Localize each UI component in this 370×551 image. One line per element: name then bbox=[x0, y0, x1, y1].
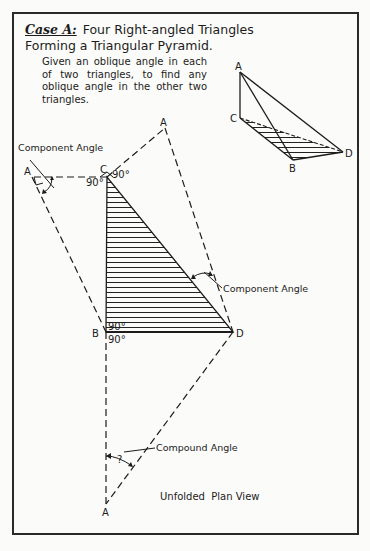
pyramid-label-b: B bbox=[289, 163, 296, 174]
pyramid-sketch: A C B D bbox=[230, 61, 353, 174]
vertex-label-b: B bbox=[92, 328, 99, 339]
leader-compound bbox=[124, 448, 155, 452]
vertex-label-c: C bbox=[100, 164, 107, 175]
annotation-compound-angle: Compound Angle bbox=[156, 442, 238, 453]
dashed-edge-a-left-to-b bbox=[32, 177, 106, 332]
unknown-angle-mark: ? bbox=[117, 454, 122, 465]
vertex-label-d: D bbox=[236, 328, 244, 339]
annotation-component-angle-left: Component Angle bbox=[18, 142, 103, 153]
vertex-label-a-top: A bbox=[160, 117, 167, 128]
arrowhead-compound-1 bbox=[106, 453, 111, 459]
diagram-canvas: A C B D Component Angle Compo bbox=[0, 0, 370, 551]
arrowhead-compound-2 bbox=[128, 462, 133, 467]
vertex-label-a-bottom: A bbox=[102, 507, 109, 518]
angle-label-b-top: 90° bbox=[108, 321, 126, 332]
arrowhead-left-2 bbox=[42, 189, 47, 194]
annotation-component-angle-right: Component Angle bbox=[223, 283, 308, 294]
pyramid-label-a: A bbox=[235, 61, 242, 72]
plan-view-caption: Unfolded Plan View bbox=[160, 491, 259, 502]
angle-label-c-right: 90° bbox=[112, 169, 130, 180]
right-angle-mark-a-left bbox=[34, 177, 43, 185]
pyramid-base-face bbox=[240, 118, 343, 160]
pyramid-label-c: C bbox=[230, 113, 237, 124]
plan-view: Component Angle Component Angle ? Compou… bbox=[18, 117, 308, 518]
vertex-label-a-left: A bbox=[24, 166, 31, 177]
leader-component-right bbox=[204, 272, 222, 288]
arrowhead-right-1 bbox=[191, 274, 196, 279]
angle-label-b-bottom: 90° bbox=[108, 334, 126, 345]
base-triangle-cbd bbox=[106, 177, 233, 332]
angle-label-c-left: 90° bbox=[86, 177, 104, 188]
pyramid-label-d: D bbox=[345, 148, 353, 159]
dashed-edge-d-a-bottom bbox=[106, 332, 233, 504]
pyramid-edge-ab bbox=[240, 72, 293, 160]
